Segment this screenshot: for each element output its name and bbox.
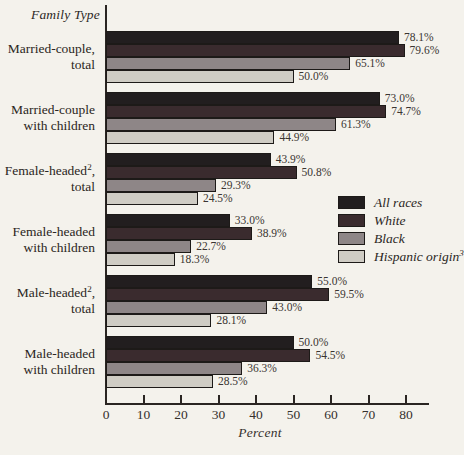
bar — [106, 192, 198, 205]
bar-value-label: 78.1% — [404, 31, 434, 44]
x-tick-label: 70 — [352, 407, 386, 423]
bar-value-label: 55.0% — [317, 275, 347, 288]
bar — [106, 44, 405, 57]
legend-item: Hispanic origin3 — [338, 250, 464, 263]
bar — [106, 375, 213, 388]
legend-item: All races — [338, 196, 464, 209]
bar — [106, 92, 380, 105]
bar-value-label: 28.5% — [218, 375, 248, 388]
legend-label: All races — [374, 195, 422, 211]
bar-value-label: 36.3% — [247, 362, 277, 375]
bar — [106, 349, 310, 362]
bar — [106, 314, 211, 327]
bar-value-label: 33.0% — [235, 214, 265, 227]
bar — [106, 336, 294, 349]
bar-value-label: 38.9% — [257, 227, 287, 240]
bar-value-label: 43.9% — [276, 153, 306, 166]
bar-value-label: 73.0% — [385, 92, 415, 105]
legend-swatch — [338, 214, 365, 227]
bar — [106, 301, 267, 314]
category-label: Female-headed2,total — [0, 153, 100, 205]
bar — [106, 227, 252, 240]
bar-value-label: 29.3% — [221, 179, 251, 192]
bar-value-label: 22.7% — [196, 240, 226, 253]
bar-value-label: 24.5% — [203, 192, 233, 205]
bar — [106, 153, 271, 166]
x-tick-label: 10 — [127, 407, 161, 423]
bar-group: 50.0%54.5%36.3%28.5% — [106, 336, 451, 388]
bar — [106, 166, 297, 179]
legend-label: Hispanic origin3 — [374, 249, 464, 265]
bar-value-label: 74.7% — [391, 105, 421, 118]
category-label: Married-couplewith children — [0, 92, 100, 144]
bar-group: 78.1%79.6%65.1%50.0% — [106, 31, 451, 83]
x-axis-title: Percent — [190, 425, 330, 441]
bar-value-label: 50.8% — [302, 166, 332, 179]
bar — [106, 288, 329, 301]
bar — [106, 131, 274, 144]
legend: All racesWhiteBlackHispanic origin3 — [338, 196, 464, 268]
bar — [106, 118, 336, 131]
bar — [106, 275, 312, 288]
x-tick-label: 30 — [202, 407, 236, 423]
x-tick-label: 40 — [239, 407, 273, 423]
legend-swatch — [338, 232, 365, 245]
bar — [106, 31, 399, 44]
bar — [106, 240, 191, 253]
bar — [106, 362, 242, 375]
bar-group: 73.0%74.7%61.3%44.9% — [106, 92, 451, 144]
x-tick-label: 0 — [89, 407, 123, 423]
category-label: Male-headed2,total — [0, 275, 100, 327]
bar-value-label: 44.9% — [279, 131, 309, 144]
x-axis-line — [105, 403, 429, 405]
bar-value-label: 18.3% — [180, 253, 210, 266]
x-tick-label: 60 — [314, 407, 348, 423]
bar-value-label: 61.3% — [341, 118, 371, 131]
legend-label: Black — [374, 231, 405, 247]
bar-value-label: 43.0% — [272, 301, 302, 314]
bar — [106, 214, 230, 227]
bar-value-label: 65.1% — [355, 57, 385, 70]
bar-value-label: 79.6% — [410, 44, 440, 57]
category-label: Male-headedwith children — [0, 336, 100, 388]
legend-swatch — [338, 196, 365, 209]
bar-value-label: 54.5% — [315, 349, 345, 362]
legend-label: White — [374, 213, 406, 229]
legend-swatch — [338, 250, 365, 263]
bar — [106, 105, 386, 118]
legend-item: White — [338, 214, 464, 227]
legend-item: Black — [338, 232, 464, 245]
bar-value-label: 59.5% — [334, 288, 364, 301]
x-tick-label: 80 — [389, 407, 423, 423]
x-tick-label: 50 — [277, 407, 311, 423]
bar — [106, 70, 294, 83]
bar-value-label: 50.0% — [299, 336, 329, 349]
bar — [106, 253, 175, 266]
category-label: Married-couple,total — [0, 31, 100, 83]
bar-value-label: 50.0% — [299, 70, 329, 83]
bar-group: 55.0%59.5%43.0%28.1% — [106, 275, 451, 327]
category-label: Female-headedwith children — [0, 214, 100, 266]
bar-value-label: 28.1% — [216, 314, 246, 327]
family-type-header: Family Type — [0, 7, 100, 23]
bar — [106, 57, 350, 70]
x-tick-label: 20 — [164, 407, 198, 423]
bar — [106, 179, 216, 192]
